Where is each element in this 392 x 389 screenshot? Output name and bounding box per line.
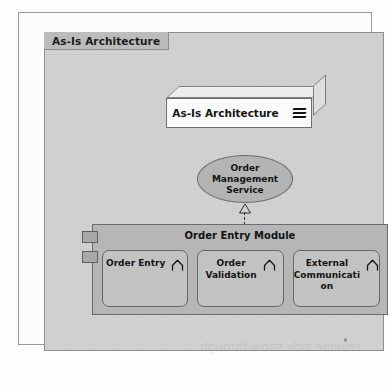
component-label-line-1: External [306,258,348,270]
component-external-communication-label: External Communicati on [294,258,360,293]
service-label-line-3: Service [226,185,263,196]
arch-icon [366,259,379,271]
component-label-line-2: Communicati [294,270,360,282]
diagram-outer-frame: reverse side show-through As-Is Architec… [18,12,372,345]
node-as-is-architecture[interactable]: As-Is Architecture [166,86,326,128]
service-order-management[interactable]: Order Management Service [197,155,293,203]
diagram-canvas[interactable]: reverse side show-through As-Is Architec… [44,32,384,351]
component-label-line-1: Order [217,258,246,270]
component-label-line-2: Validation [205,270,256,282]
arch-icon [171,259,184,271]
component-label-line-3: on [321,281,334,293]
component-order-entry[interactable]: Order Entry [102,250,188,307]
component-external-communication[interactable]: External Communicati on [293,250,380,307]
component-label-line-1: Order Entry [106,258,165,270]
component-order-entry-label: Order Entry [106,258,165,270]
component-order-validation[interactable]: Order Validation [197,250,283,307]
paper-speck [344,338,347,342]
diagram-title-label: As-Is Architecture [52,35,160,47]
module-component-row: Order Entry Order Validation [102,250,380,307]
node-top-face [166,86,325,98]
page-bleed-through-artifact: reverse side show-through [100,339,360,373]
service-label-line-2: Management [212,174,278,185]
component-order-entry-module[interactable]: Order Entry Module Order Entry [92,224,388,315]
realization-arrowhead-icon [238,203,252,225]
service-label-line-1: Order [230,163,259,174]
node-label: As-Is Architecture [172,107,278,119]
arch-icon [263,259,276,271]
component-tab-lower [82,251,98,263]
realization-connector[interactable] [238,203,252,225]
node-side-face [313,74,326,116]
scanned-page: reverse side show-through As-Is Architec… [0,0,392,389]
node-front-face: As-Is Architecture [166,98,312,128]
stacked-layers-icon [293,108,306,118]
module-title: Order Entry Module [93,230,387,241]
component-order-validation-label: Order Validation [205,258,256,281]
diagram-title-tab[interactable]: As-Is Architecture [44,32,169,50]
